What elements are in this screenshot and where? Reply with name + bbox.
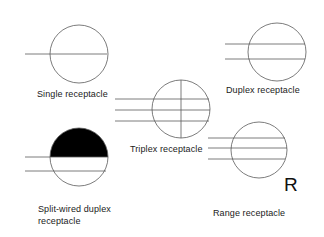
range-receptacle-label: Range receptacle: [213, 207, 285, 219]
duplex-receptacle-circle: [248, 23, 306, 81]
range-receptacle-symbol: [208, 122, 287, 178]
split-wired-label-line-1: Split-wired duplex: [38, 203, 111, 215]
duplex-receptacle-symbol: [225, 23, 306, 81]
range-receptacle-circle: [231, 122, 287, 178]
triplex-receptacle-label: Triplex receptacle: [130, 143, 203, 155]
single-receptacle-label: Single receptacle: [37, 88, 108, 100]
single-receptacle-symbol: [25, 25, 108, 83]
triplex-receptacle-symbol: [115, 80, 210, 138]
split-wired-filled-half: [50, 128, 108, 157]
receptacle-symbols-diagram: [0, 0, 324, 237]
range-marker-r: R: [284, 175, 298, 194]
split-wired-duplex-receptacle-symbol: [25, 128, 108, 186]
duplex-receptacle-label: Duplex receptacle: [226, 84, 300, 96]
split-wired-label-line-2: receptacle: [38, 215, 81, 227]
